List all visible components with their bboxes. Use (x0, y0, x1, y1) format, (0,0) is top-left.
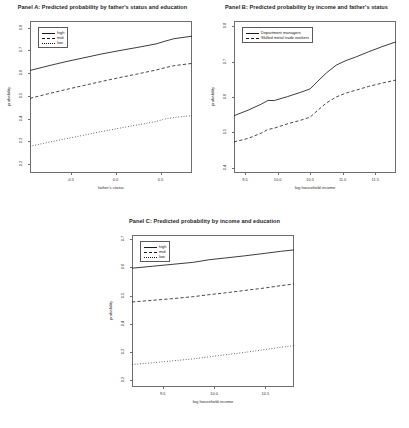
series-line (30, 63, 192, 98)
x-tick-label: 9.5 (153, 391, 173, 396)
x-tick-mark (265, 387, 266, 389)
panel-b-legend: Department managers Skilled metal trade … (242, 27, 313, 43)
y-tick-label: 0.2 (120, 372, 125, 386)
panel-b-y-axis-label: probability (210, 77, 215, 117)
panel-b: Panel B: Predicted probability by income… (204, 4, 409, 214)
series-line (132, 284, 294, 302)
panel-c-plot-area: high mid low (132, 235, 294, 387)
panel-c-y-axis-label: probability (108, 291, 113, 331)
y-tick-label: 0.4 (18, 111, 23, 125)
y-tick-mark (130, 380, 132, 381)
panel-b-series-lines (234, 21, 396, 173)
x-tick-label: 10.0 (268, 177, 288, 182)
panel-b-x-axis-label: log household income (234, 185, 396, 190)
x-tick-mark (310, 173, 311, 175)
y-tick-mark (232, 26, 234, 27)
panel-a-y-axis-label: probability (6, 77, 11, 117)
panel-c: Panel C: Predicted probability by income… (102, 218, 307, 428)
y-tick-mark (28, 141, 30, 142)
x-tick-mark (245, 173, 246, 175)
x-tick-label: 0.0 (106, 177, 126, 182)
y-tick-mark (232, 62, 234, 63)
y-tick-mark (130, 296, 132, 297)
x-tick-label: 10.5 (300, 177, 320, 182)
y-tick-label: 0.7 (222, 54, 227, 68)
x-tick-label: 11.0 (333, 177, 353, 182)
y-tick-mark (232, 97, 234, 98)
x-tick-label: 0.5 (151, 177, 171, 182)
legend-line-dashed-icon (246, 35, 259, 40)
panel-a-title: Panel A: Predicted probability by father… (0, 4, 205, 10)
y-tick-label: 0.8 (222, 19, 227, 33)
y-tick-mark (28, 28, 30, 29)
y-tick-label: 0.8 (18, 20, 23, 34)
y-tick-mark (28, 164, 30, 165)
y-tick-mark (28, 96, 30, 97)
y-tick-label: 0.5 (222, 125, 227, 139)
panel-c-legend: high mid low (140, 241, 170, 262)
series-line (234, 80, 396, 142)
x-tick-mark (278, 173, 279, 175)
y-tick-label: 0.6 (222, 90, 227, 104)
x-tick-mark (163, 387, 164, 389)
y-tick-label: 0.3 (18, 134, 23, 148)
legend-line-dotted-icon (144, 254, 157, 259)
legend-item: low (42, 40, 65, 45)
panel-c-x-axis-label: log household income (132, 399, 294, 404)
legend-item: low (144, 254, 167, 259)
x-tick-label: -0.5 (61, 177, 81, 182)
panel-b-title: Panel B: Predicted probability by income… (204, 4, 409, 10)
y-tick-label: 0.7 (120, 232, 125, 246)
legend-label: low (57, 40, 63, 45)
x-tick-mark (116, 173, 117, 175)
y-tick-mark (130, 352, 132, 353)
y-tick-label: 0.6 (18, 66, 23, 80)
y-tick-label: 0.5 (120, 288, 125, 302)
figure-canvas: { "figure": { "background": "#ffffff", "… (0, 0, 409, 428)
x-tick-mark (214, 387, 215, 389)
series-line (234, 42, 396, 116)
y-tick-mark (232, 168, 234, 169)
legend-line-dotted-icon (42, 40, 55, 45)
y-tick-mark (130, 267, 132, 268)
y-tick-label: 0.5 (18, 88, 23, 102)
panel-a-x-axis-label: father's status (30, 185, 192, 190)
y-tick-mark (28, 119, 30, 120)
y-tick-mark (28, 50, 30, 51)
legend-item: Skilled metal trade workers (246, 35, 310, 40)
y-tick-label: 0.6 (120, 260, 125, 274)
panel-a-legend: high mid low (38, 27, 68, 48)
series-line (132, 346, 294, 365)
x-tick-mark (343, 173, 344, 175)
x-tick-label: 9.5 (235, 177, 255, 182)
y-tick-mark (28, 73, 30, 74)
x-tick-label: 10.0 (204, 391, 224, 396)
x-tick-label: 11.5 (365, 177, 385, 182)
legend-label: Skilled metal trade workers (261, 35, 309, 40)
y-tick-mark (232, 132, 234, 133)
y-tick-label: 0.2 (18, 156, 23, 170)
panel-a-plot-area: high mid low (30, 21, 192, 173)
x-tick-label: 10.5 (255, 391, 275, 396)
x-tick-mark (71, 173, 72, 175)
x-tick-mark (375, 173, 376, 175)
panel-b-plot-area: Department managers Skilled metal trade … (234, 21, 396, 173)
y-tick-mark (130, 324, 132, 325)
legend-label: low (159, 254, 165, 259)
y-tick-label: 0.4 (222, 160, 227, 174)
y-tick-label: 0.7 (18, 43, 23, 57)
series-line (30, 116, 192, 147)
y-tick-mark (130, 239, 132, 240)
panel-c-title: Panel C: Predicted probability by income… (102, 218, 307, 224)
panel-a: Panel A: Predicted probability by father… (0, 4, 205, 214)
x-tick-mark (161, 173, 162, 175)
y-tick-label: 0.3 (120, 344, 125, 358)
y-tick-label: 0.4 (120, 316, 125, 330)
